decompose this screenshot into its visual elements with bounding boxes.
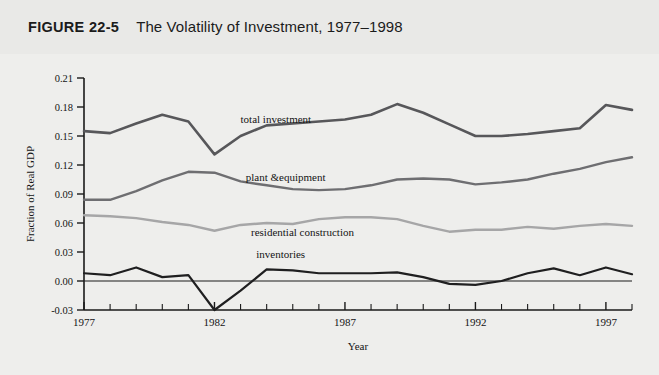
- y-tick-label: 0.15: [55, 131, 73, 142]
- x-axis-title: Year: [348, 340, 369, 352]
- figure-caption: FIGURE 22-5The Volatility of Investment,…: [28, 18, 403, 36]
- x-tick-label: 1987: [334, 316, 357, 328]
- y-tick-label: 0.12: [55, 160, 73, 171]
- series-line-inventories: [84, 267, 632, 310]
- figure-header-band: FIGURE 22-5The Volatility of Investment,…: [0, 0, 659, 54]
- series-inline-labels: total investmentplant &equipmentresident…: [241, 113, 355, 259]
- series-label-residential-construction: residential construction: [251, 226, 354, 238]
- series-line-total-investment: [84, 104, 632, 154]
- figure-page: FIGURE 22-5The Volatility of Investment,…: [0, 0, 659, 375]
- figure-title: The Volatility of Investment, 1977–1998: [136, 18, 403, 35]
- y-tick-label: 0.00: [55, 276, 73, 287]
- y-axis-title: Fraction of Real GDP: [24, 146, 36, 242]
- y-tick-label: 0.09: [55, 189, 73, 200]
- series-line-plant-equipment: [84, 157, 632, 200]
- x-axis-minor-ticks: [84, 302, 632, 310]
- x-axis-tick-labels: 19771982198719921997: [73, 316, 617, 328]
- y-tick-label: 0.18: [55, 102, 73, 113]
- y-tick-label: 0.21: [55, 73, 73, 84]
- x-tick-label: 1997: [595, 316, 618, 328]
- figure-number: FIGURE 22-5: [28, 19, 119, 35]
- series-label-inventories: inventories: [256, 248, 305, 260]
- y-axis-tick-labels: 0.210.180.150.120.090.060.030.00-0.03: [51, 73, 73, 316]
- chart-plot-area: 0.210.180.150.120.090.060.030.00-0.03 19…: [0, 54, 659, 375]
- y-tick-label: 0.03: [55, 247, 73, 258]
- y-tick-label: 0.06: [55, 218, 73, 229]
- investment-volatility-line-chart: 0.210.180.150.120.090.060.030.00-0.03 19…: [0, 54, 659, 375]
- series-label-plant-equipment: plant &equipment: [246, 171, 326, 183]
- y-axis-ticks: [77, 78, 84, 310]
- series-line-residential-construction: [84, 215, 632, 231]
- y-tick-label: -0.03: [51, 305, 73, 316]
- series-label-total-investment: total investment: [241, 113, 312, 125]
- data-series-lines: [84, 104, 632, 310]
- x-tick-label: 1977: [73, 316, 96, 328]
- x-tick-label: 1982: [203, 316, 225, 328]
- x-tick-label: 1992: [464, 316, 486, 328]
